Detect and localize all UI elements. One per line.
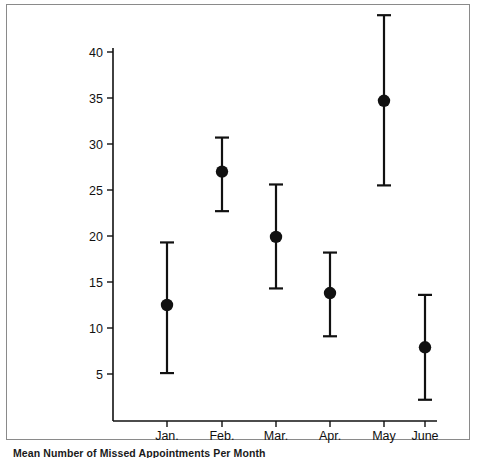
data-point-group bbox=[215, 138, 229, 212]
y-tick-label: 25 bbox=[89, 184, 103, 198]
x-tick-label: Jan. bbox=[155, 429, 179, 443]
data-point-group bbox=[377, 15, 391, 185]
y-tick-label: 20 bbox=[89, 230, 103, 244]
figure-page: 510152025303540 Jan.Feb.Mar.Apr.MayJune … bbox=[0, 0, 482, 458]
mean-marker-dot bbox=[419, 341, 431, 353]
x-tick-label: June bbox=[411, 429, 438, 443]
errorbar-chart: 510152025303540 Jan.Feb.Mar.Apr.MayJune bbox=[0, 0, 482, 458]
y-tick-label: 40 bbox=[89, 46, 103, 60]
y-axis-ticks: 510152025303540 bbox=[89, 46, 113, 382]
y-tick-label: 35 bbox=[89, 92, 103, 106]
data-point-group bbox=[323, 253, 337, 337]
mean-marker-dot bbox=[324, 287, 336, 299]
y-tick-label: 5 bbox=[96, 368, 103, 382]
mean-marker-dot bbox=[161, 299, 173, 311]
x-tick-label: May bbox=[372, 429, 396, 443]
y-tick-label: 15 bbox=[89, 276, 103, 290]
mean-marker-dot bbox=[216, 165, 228, 177]
mean-marker-dot bbox=[378, 95, 390, 107]
x-tick-label: Mar. bbox=[264, 429, 288, 443]
data-point-group bbox=[269, 184, 283, 288]
y-tick-label: 30 bbox=[89, 138, 103, 152]
data-point-group bbox=[160, 242, 174, 373]
y-tick-label: 10 bbox=[89, 322, 103, 336]
data-series-layer bbox=[160, 15, 432, 400]
x-tick-label: Apr. bbox=[319, 429, 341, 443]
mean-marker-dot bbox=[270, 231, 282, 243]
x-tick-label: Feb. bbox=[209, 429, 234, 443]
x-axis-ticks: Jan.Feb.Mar.Apr.MayJune bbox=[155, 421, 438, 443]
figure-caption: Mean Number of Missed Appointments Per M… bbox=[13, 447, 453, 458]
data-point-group bbox=[418, 295, 432, 400]
